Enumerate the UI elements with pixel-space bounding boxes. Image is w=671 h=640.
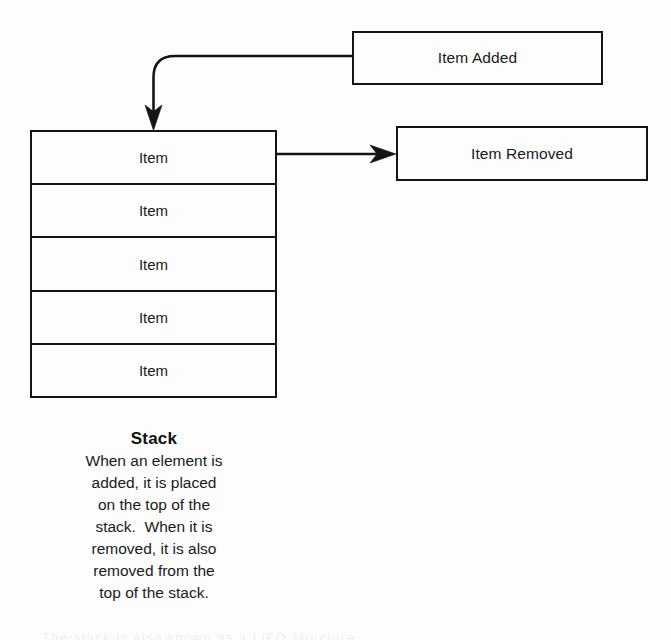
push-arrowhead-icon [145, 105, 162, 131]
item-added-box: Item Added [352, 31, 603, 85]
stack-diagram-canvas: Item Added Item Removed Item Item Item I… [0, 0, 671, 640]
stack-cell: Item [32, 132, 275, 185]
stack-cell-label: Item [139, 310, 168, 325]
stack-cell: Item [32, 292, 275, 345]
caption-line: removed, it is also [33, 538, 275, 560]
stack-cell-label: Item [139, 203, 168, 218]
caption-line: stack. When it is [33, 516, 275, 538]
stack-box: Item Item Item Item Item [30, 130, 277, 398]
stack-cell-label: Item [139, 257, 168, 272]
item-added-label: Item Added [438, 50, 517, 66]
stack-caption: Stack When an element is added, it is pl… [33, 428, 275, 604]
stack-cell-label: Item [139, 363, 168, 378]
stack-cell: Item [32, 238, 275, 291]
pop-arrow [277, 145, 396, 163]
clipped-bottom-text-line: The stack is also known as a LIFO struct… [0, 631, 671, 640]
stack-cell: Item [32, 345, 275, 396]
stack-cell: Item [32, 185, 275, 238]
caption-line: When an element is [33, 450, 275, 472]
push-arrow [145, 56, 352, 131]
caption-line: removed from the [33, 560, 275, 582]
caption-line: added, it is placed [33, 472, 275, 494]
caption-line: on the top of the [33, 494, 275, 516]
clipped-bottom-text: The stack is also known as a LIFO struct… [0, 631, 671, 640]
pop-arrowhead-icon [370, 145, 396, 163]
caption-line: top of the stack. [33, 582, 275, 604]
item-removed-label: Item Removed [471, 146, 573, 162]
caption-title: Stack [33, 428, 275, 450]
stack-cell-label: Item [139, 150, 168, 165]
item-removed-box: Item Removed [396, 126, 648, 181]
